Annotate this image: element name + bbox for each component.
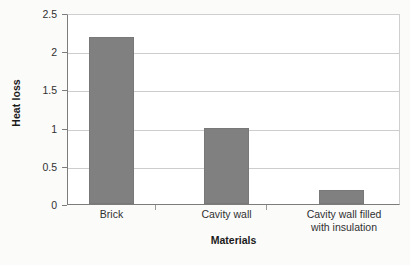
x-axis-label-cavity-wall-line1: Cavity wall bbox=[170, 208, 283, 221]
x-axis-label-cavity-wall-filled-line1: Cavity wall filled bbox=[285, 208, 403, 221]
y-tick-label-2-5: 2.5 bbox=[17, 8, 57, 20]
bar-cavity-wall-filled-with-insulation bbox=[319, 190, 364, 204]
bar-cavity-wall bbox=[204, 128, 249, 204]
y-tick-label-0: 0 bbox=[17, 199, 57, 211]
y-tick-mark-0 bbox=[62, 205, 67, 206]
y-tick-label-1-5: 1.5 bbox=[17, 84, 57, 96]
y-tick-label-2: 2 bbox=[17, 46, 57, 58]
bar-brick bbox=[89, 37, 134, 204]
x-axis-label-brick: Brick bbox=[55, 208, 168, 221]
x-axis-label-cavity-wall: Cavity wall bbox=[170, 208, 283, 221]
y-axis-title: Heat loss bbox=[8, 0, 24, 205]
y-tick-label-0-5: 0.5 bbox=[17, 161, 57, 173]
y-tick-label-1: 1 bbox=[17, 123, 57, 135]
x-axis-label-brick-line1: Brick bbox=[55, 208, 168, 221]
bar-chart-figure: Heat loss 2.5 2 1.5 1 0.5 0 Brick Cavity… bbox=[0, 0, 410, 265]
x-axis-title: Materials bbox=[67, 234, 400, 246]
plot-area bbox=[67, 14, 400, 205]
x-axis-label-cavity-wall-filled: Cavity wall filled with insulation bbox=[285, 208, 403, 233]
x-axis-label-cavity-wall-filled-line2: with insulation bbox=[285, 221, 403, 234]
